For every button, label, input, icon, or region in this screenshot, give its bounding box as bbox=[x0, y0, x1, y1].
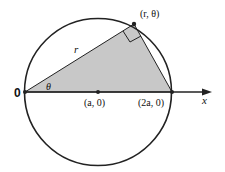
diameter-end-point bbox=[170, 90, 174, 94]
center-point bbox=[96, 90, 100, 94]
x-axis-label: x bbox=[201, 94, 207, 106]
radius-label: r bbox=[74, 43, 79, 55]
diameter-end-label: (2a, 0) bbox=[138, 97, 164, 109]
polar-point bbox=[132, 22, 136, 26]
center-label: (a, 0) bbox=[84, 97, 105, 109]
polar-diagram: 0 θ r (a, 0) (2a, 0) (r, θ) x bbox=[0, 0, 225, 172]
origin-label: 0 bbox=[14, 86, 21, 100]
polar-point-label: (r, θ) bbox=[140, 8, 159, 20]
origin-point bbox=[23, 90, 27, 94]
angle-label: θ bbox=[46, 81, 51, 92]
